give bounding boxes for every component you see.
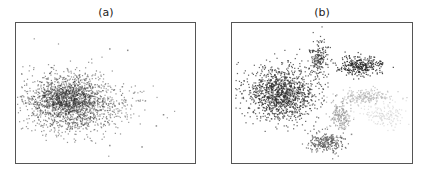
panel-b-scatter-canvas (232, 23, 412, 163)
panel-a-title: (a) (76, 7, 136, 19)
panel-b-plot-frame (231, 22, 413, 164)
panel-a-plot-frame (15, 22, 196, 164)
panel-b-title: (b) (292, 7, 352, 19)
panel-a-scatter-canvas (16, 23, 195, 163)
